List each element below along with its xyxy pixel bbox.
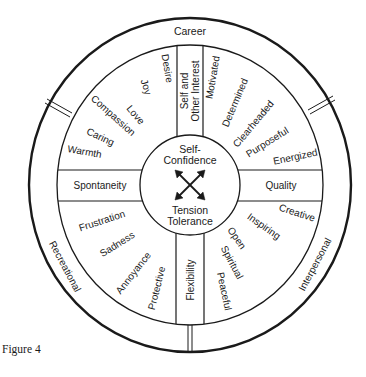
quadrant-word: Determined [220,77,250,129]
band-label-right: Quality [265,180,296,191]
band-label-top-line2: Other Interest [190,60,201,121]
band-label-left: Spontaneity [74,180,127,191]
outer-label-recreational: Recreational [47,239,83,294]
quadrant-word: Sadness [98,229,137,259]
outer-label-career: Career [174,25,207,37]
center-label-bottom-line2: Tolerance [167,215,213,227]
center-label-top-line2: Confidence [163,154,216,166]
divider-upper-left [45,99,72,117]
band-label-bottom: Flexibility [185,259,196,300]
quadrant-word: Warmth [67,143,103,160]
outer-label-interpersonal: Interpersonal [296,236,333,293]
quadrant-word: Desire [160,53,176,84]
quadrant-word: Frustration [77,208,126,233]
quadrant-word: Caring [85,126,116,148]
divider-bottom [188,325,192,352]
quadrant-word: Inspiring [245,211,282,242]
quadrant-word: Joy [139,78,154,96]
quadrant-word: Creative [278,202,317,224]
figure-caption: Figure 4 [2,343,41,356]
quadrant-word: Peaceful [215,271,234,311]
wheel-diagram: Self- Confidence Tension Tolerance Caree… [0,0,366,377]
band-label-top-line1: Self and [179,73,190,110]
quadrant-word: Energized [272,147,318,167]
quadrant-word: Motivated [203,55,221,100]
quadrant-word: Protective [146,265,168,311]
quadrant-word: Annoyance [114,249,154,296]
